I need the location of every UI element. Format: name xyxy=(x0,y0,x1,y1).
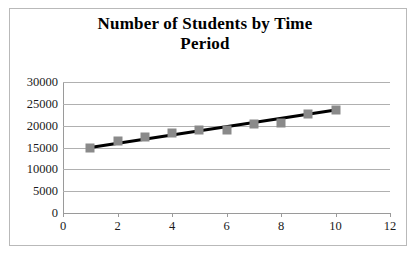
x-axis-tick xyxy=(172,213,173,217)
chart-title-line-1: Number of Students by Time xyxy=(40,14,370,34)
data-point-marker xyxy=(168,128,177,137)
y-axis-tick-label: 25000 xyxy=(27,96,58,111)
y-axis-tick-label: 15000 xyxy=(27,140,58,155)
x-axis-tick-label: 12 xyxy=(384,219,397,234)
x-axis-tick-label: 10 xyxy=(329,219,342,234)
data-point-marker xyxy=(277,119,286,128)
plot-area xyxy=(63,82,390,213)
x-axis-tick xyxy=(118,213,119,217)
y-axis-tick-labels: 050001000015000200002500030000 xyxy=(0,82,58,213)
y-axis-tick-label: 10000 xyxy=(27,162,58,177)
data-point-marker xyxy=(304,109,313,118)
x-axis: 024681012 xyxy=(63,213,390,237)
chart-title: Number of Students by Time Period xyxy=(40,14,370,54)
x-axis-tick-label: 8 xyxy=(278,219,284,234)
data-point-marker xyxy=(113,136,122,145)
chart-title-line-2: Period xyxy=(40,34,370,54)
x-axis-tick xyxy=(390,213,391,217)
x-axis-tick xyxy=(336,213,337,217)
data-point-marker xyxy=(140,132,149,141)
x-axis-tick-label: 6 xyxy=(223,219,229,234)
x-axis-tick-label: 0 xyxy=(60,219,66,234)
trendline xyxy=(63,82,390,213)
y-axis-tick-label: 0 xyxy=(52,206,58,221)
y-axis-tick-label: 5000 xyxy=(33,184,58,199)
trendline-segment xyxy=(90,110,335,148)
x-axis-tick xyxy=(281,213,282,217)
data-point-marker xyxy=(86,143,95,152)
data-point-marker xyxy=(249,120,258,129)
data-point-marker xyxy=(331,105,340,114)
chart-container: Number of Students by Time Period 050001… xyxy=(0,0,418,256)
y-axis-tick-label: 20000 xyxy=(27,118,58,133)
x-axis-tick xyxy=(63,213,64,217)
x-axis-tick-label: 4 xyxy=(169,219,175,234)
x-axis-tick-label: 2 xyxy=(114,219,120,234)
data-point-marker xyxy=(195,126,204,135)
y-axis-tick-label: 30000 xyxy=(27,75,58,90)
data-point-marker xyxy=(222,126,231,135)
x-axis-tick xyxy=(227,213,228,217)
